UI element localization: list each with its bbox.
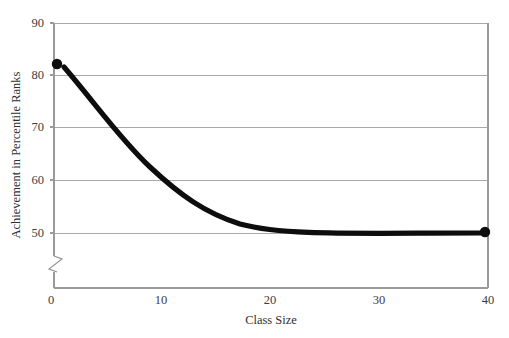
y-tick-label-70: 70 (32, 120, 45, 134)
y-tick-label-50: 50 (32, 226, 45, 240)
y-tick-label-0: 0 (48, 293, 54, 307)
data-point-left-endpoint (52, 59, 62, 69)
chart-page: 90 80 70 60 50 0 10 20 30 40 Class Size … (0, 0, 509, 338)
x-tick-label-20: 20 (264, 293, 277, 307)
plot-area-background (54, 23, 488, 288)
x-axis-title: Class Size (245, 313, 297, 327)
y-tick-label-60: 60 (32, 173, 45, 187)
x-tick-label-10: 10 (155, 293, 168, 307)
y-tick-marks (50, 23, 54, 233)
x-tick-label-40: 40 (482, 293, 495, 307)
achievement-class-size-chart: 90 80 70 60 50 0 10 20 30 40 Class Size … (0, 0, 509, 338)
y-tick-label-80: 80 (32, 68, 45, 82)
y-axis-title: Achievement in Percentile Ranks (9, 71, 23, 238)
y-tick-labels: 90 80 70 60 50 0 (32, 16, 55, 307)
y-tick-label-90: 90 (32, 16, 45, 30)
x-tick-labels: 10 20 30 40 (155, 293, 495, 307)
data-point-right-endpoint (480, 227, 490, 237)
x-tick-label-30: 30 (373, 293, 386, 307)
